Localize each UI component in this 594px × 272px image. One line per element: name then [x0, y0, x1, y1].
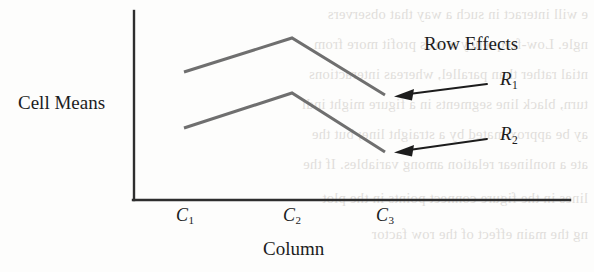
legend-title: Row Effects [424, 33, 518, 55]
x-tick-c1: C1 [176, 205, 194, 226]
series-annotation-r2-subscript: 2 [512, 134, 518, 146]
y-axis-title: Cell Means [18, 92, 105, 114]
x-tick-c3-subscript: 3 [389, 214, 395, 226]
series-line-r1 [184, 38, 385, 95]
x-axis-title: Column [263, 238, 324, 260]
x-tick-c3: C3 [376, 205, 394, 226]
figure-page: e will interact in such a way that obser… [0, 0, 594, 272]
series-annotation-r1: R1 [500, 68, 517, 90]
series-annotation-r2: R2 [500, 123, 517, 145]
x-tick-c2: C2 [283, 205, 301, 226]
x-tick-c2-letter: C [283, 205, 295, 225]
series-line-r2 [184, 93, 385, 152]
series-annotation-r2-letter: R [500, 123, 512, 144]
x-tick-c1-subscript: 1 [189, 214, 195, 226]
series-annotation-r1-letter: R [500, 68, 512, 89]
x-tick-c3-letter: C [376, 205, 388, 225]
series-annotation-r1-subscript: 1 [512, 79, 518, 91]
annotation-arrow-r2 [394, 139, 487, 157]
x-tick-c2-subscript: 2 [296, 214, 302, 226]
annotation-arrow-r1 [394, 84, 487, 101]
x-tick-c1-letter: C [176, 205, 188, 225]
